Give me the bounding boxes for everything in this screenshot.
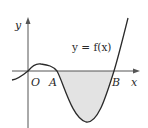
y-axis-arrow-icon [26, 17, 31, 24]
point-a-label: A [48, 76, 57, 89]
point-b-label: B [111, 76, 120, 89]
x-axis-label: x [131, 76, 138, 89]
origin-label: O [31, 76, 40, 89]
function-curve [12, 18, 128, 122]
function-graph: y x O A B y = f(x) [0, 0, 148, 128]
y-axis-label: y [14, 19, 22, 32]
x-axis-arrow-icon [133, 69, 140, 74]
function-label: y = f(x) [71, 41, 111, 53]
